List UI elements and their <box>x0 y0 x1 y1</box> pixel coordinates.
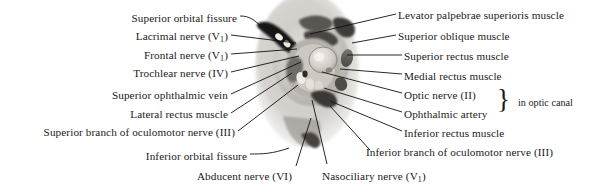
orbital-apex-photograph <box>243 0 375 164</box>
label-medial-rectus-muscle: Medial rectus muscle <box>404 70 502 83</box>
optic-nerve-structure <box>309 47 337 73</box>
label-superior-orbital-fissure: Superior orbital fissure <box>131 12 237 25</box>
label-ophthalmic-artery: Ophthalmic artery <box>404 108 487 121</box>
label-frontal-nerve-tail: ) <box>224 49 228 61</box>
label-levator-palpebrae-superioris-muscle: Levator palpebrae superioris muscle <box>398 9 564 22</box>
photograph-svg <box>243 0 375 164</box>
label-medial-rectus-muscle-text: Medial rectus muscle <box>404 70 502 82</box>
label-lacrimal-nerve: Lacrimal nerve (V1) <box>136 30 228 46</box>
label-optic-nerve-text: Optic nerve (II) <box>404 89 476 101</box>
label-inferior-orbital-fissure-text: Inferior orbital fissure <box>146 150 247 162</box>
orbital-apex-figure: Superior orbital fissure Lacrimal nerve … <box>0 0 603 195</box>
label-optic-nerve: Optic nerve (II) <box>404 89 476 102</box>
ophthalmic-artery-structure <box>326 67 332 72</box>
label-abducent-nerve-text: Abducent nerve (VI) <box>197 170 292 182</box>
label-lacrimal-nerve-text: Lacrimal nerve (V <box>136 30 220 42</box>
label-inferior-branch-oculomotor-text: Inferior branch of oculomotor nerve (III… <box>366 146 553 158</box>
label-frontal-nerve-text: Frontal nerve (V <box>144 49 220 61</box>
label-inferior-rectus-muscle-text: Inferior rectus muscle <box>404 127 504 139</box>
abducent-nerve-structure <box>302 71 307 78</box>
label-superior-branch-oculomotor-text: Superior branch of oculomotor nerve (III… <box>44 126 235 138</box>
label-lateral-rectus-muscle-text: Lateral rectus muscle <box>130 108 228 120</box>
label-trochlear-nerve: Trochlear nerve (IV) <box>133 67 228 80</box>
label-inferior-branch-oculomotor: Inferior branch of oculomotor nerve (III… <box>366 146 553 159</box>
label-lateral-rectus-muscle: Lateral rectus muscle <box>130 108 228 121</box>
label-ophthalmic-artery-text: Ophthalmic artery <box>404 108 487 120</box>
label-superior-oblique-muscle-text: Superior oblique muscle <box>398 30 510 42</box>
label-superior-rectus-muscle: Superior rectus muscle <box>404 50 509 63</box>
label-levator-palpebrae-superioris-muscle-text: Levator palpebrae superioris muscle <box>398 9 564 21</box>
label-nasociliary-nerve-text: Nasociliary nerve (V <box>322 170 418 182</box>
optic-canal-brace: } <box>497 86 510 113</box>
label-superior-branch-oculomotor: Superior branch of oculomotor nerve (III… <box>44 126 235 139</box>
optic-canal-note: in optic canal <box>518 97 573 108</box>
label-abducent-nerve: Abducent nerve (VI) <box>197 170 292 183</box>
label-superior-orbital-fissure-text: Superior orbital fissure <box>131 12 237 24</box>
label-superior-rectus-muscle-text: Superior rectus muscle <box>404 50 509 62</box>
label-inferior-orbital-fissure: Inferior orbital fissure <box>146 150 247 163</box>
label-inferior-rectus-muscle: Inferior rectus muscle <box>404 127 504 140</box>
label-nasociliary-nerve-tail: ) <box>422 170 426 182</box>
label-lacrimal-nerve-tail: ) <box>224 30 228 42</box>
label-superior-ophthalmic-vein-text: Superior ophthalmic vein <box>112 89 228 101</box>
label-frontal-nerve: Frontal nerve (V1) <box>144 49 228 65</box>
label-nasociliary-nerve: Nasociliary nerve (V1) <box>322 170 426 186</box>
label-superior-ophthalmic-vein: Superior ophthalmic vein <box>112 89 228 102</box>
optic-nerve-highlight <box>314 53 324 62</box>
label-trochlear-nerve-text: Trochlear nerve (IV) <box>133 67 228 79</box>
label-superior-oblique-muscle: Superior oblique muscle <box>398 30 510 43</box>
